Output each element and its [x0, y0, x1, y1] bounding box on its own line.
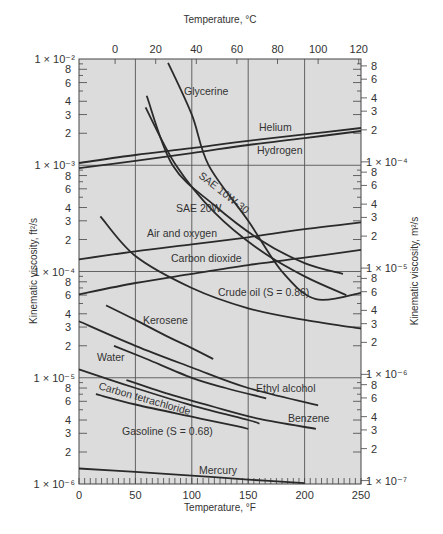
y2-minor-label: 3: [371, 211, 377, 223]
x2-tick-label: 40: [190, 43, 202, 55]
y-minor-label: 8: [65, 276, 71, 288]
y-minor-label: 2: [65, 446, 71, 458]
y2-minor-label: 2: [371, 443, 377, 455]
label-benzene: Benzene: [288, 412, 330, 424]
y2-axis-title: Kinematic viscosity, m²/s: [409, 217, 420, 326]
y-minor-label: 3: [65, 215, 71, 227]
y2-decade-label: 1 × 10⁻⁶: [366, 368, 407, 380]
label-helium: Helium: [259, 121, 292, 133]
y-minor-label: 3: [65, 321, 71, 333]
y2-decade-label: 1 × 10⁻⁵: [366, 262, 407, 274]
label-mercury: Mercury: [199, 464, 238, 476]
y2-minor-label: 4: [371, 198, 377, 210]
x-tick-label: 200: [295, 489, 313, 501]
y2-minor-label: 4: [371, 92, 377, 104]
x-tick-label: 250: [352, 489, 370, 501]
y-minor-label: 3: [65, 427, 71, 439]
y-minor-label: 2: [65, 234, 71, 246]
y-minor-label: 6: [65, 289, 71, 301]
y2-minor-label: 8: [371, 272, 377, 284]
x2-tick-label: 80: [271, 43, 283, 55]
x-tick-label: 150: [239, 489, 257, 501]
y-minor-label: 8: [65, 63, 71, 75]
y2-minor-label: 4: [371, 411, 377, 423]
y2-decade-label: 1 × 10⁻⁴: [366, 156, 408, 168]
x2-tick-label: 20: [150, 43, 162, 55]
y-minor-label: 6: [65, 183, 71, 195]
y2-minor-label: 2: [371, 124, 377, 136]
label-gasoline: Gasoline (S = 0.68): [122, 425, 213, 437]
y-minor-label: 4: [65, 95, 71, 107]
x-tick-label: 50: [129, 489, 141, 501]
label-ethyl-alcohol: Ethyl alcohol: [256, 382, 316, 394]
y-axis-title: Kinematic viscosity, ft²/s: [28, 218, 39, 324]
label-kerosene: Kerosene: [143, 314, 188, 326]
x2-tick-label: 0: [112, 43, 118, 55]
label-water: Water: [97, 351, 125, 363]
x2-axis-title: Temperature, °C: [184, 14, 257, 25]
label-crude-oil: Crude oil (S = 0.86): [218, 286, 309, 298]
y2-minor-label: 3: [371, 424, 377, 436]
x2-tick-label: 100: [309, 43, 327, 55]
y2-minor-label: 8: [371, 166, 377, 178]
y-minor-label: 4: [65, 202, 71, 214]
x-tick-label: 100: [183, 489, 201, 501]
y-minor-label: 2: [65, 340, 71, 352]
y2-minor-label: 2: [371, 336, 377, 348]
y2-minor-label: 8: [371, 60, 377, 72]
y-minor-label: 3: [65, 109, 71, 121]
y2-minor-label: 4: [371, 304, 377, 316]
label-sae-20w: SAE 20W: [176, 202, 222, 214]
y-decade-label: 1 × 10⁻⁶: [34, 478, 75, 490]
label-hydrogen: Hydrogen: [257, 144, 303, 156]
y2-minor-label: 3: [371, 318, 377, 330]
y-minor-label: 2: [65, 127, 71, 139]
y2-minor-label: 2: [371, 230, 377, 242]
label-air-oxygen: Air and oxygen: [147, 227, 217, 239]
y-minor-label: 8: [65, 382, 71, 394]
y2-minor-label: 6: [371, 73, 377, 85]
y-minor-label: 4: [65, 308, 71, 320]
y2-minor-label: 6: [371, 179, 377, 191]
y2-minor-label: 3: [371, 105, 377, 117]
x2-tick-label: 120: [350, 43, 368, 55]
viscosity-chart: 0501001502002500204060801001201 × 10⁻²1 …: [0, 0, 443, 534]
x2-tick-label: 60: [231, 43, 243, 55]
x-tick-label: 0: [76, 489, 82, 501]
y-minor-label: 6: [65, 395, 71, 407]
y-minor-label: 6: [65, 77, 71, 89]
y-minor-label: 8: [65, 170, 71, 182]
x-axis-title: Temperature, °F: [184, 502, 256, 513]
y2-minor-label: 6: [371, 286, 377, 298]
y-minor-label: 4: [65, 414, 71, 426]
y2-decade-label: 1 × 10⁻⁷: [366, 475, 407, 487]
label-carbon-dioxide: Carbon dioxide: [171, 252, 242, 264]
label-glycerine: Glycerine: [184, 85, 229, 97]
y2-minor-label: 8: [371, 379, 377, 391]
y2-minor-label: 6: [371, 392, 377, 404]
